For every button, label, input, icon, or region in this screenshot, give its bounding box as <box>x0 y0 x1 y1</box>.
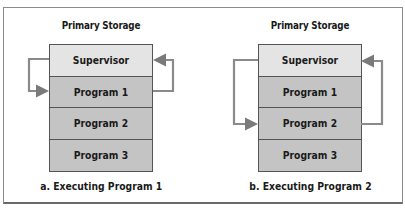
panel-b-arrow-supervisor-to-program2 <box>234 60 258 124</box>
panel-a-arrow-program1-to-supervisor <box>153 60 173 91</box>
panel-a-arrow-supervisor-to-program1 <box>29 59 49 91</box>
control-flow-arrows <box>0 0 405 216</box>
panel-b-arrow-program2-to-supervisor <box>361 61 382 124</box>
